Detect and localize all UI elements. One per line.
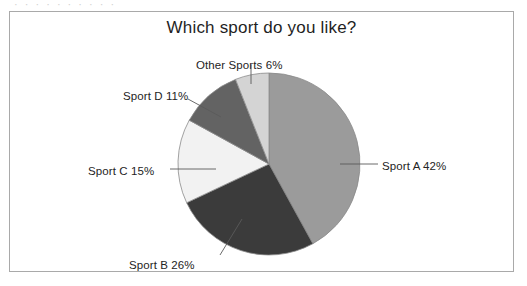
pie-label-other-sports: Other Sports 6% — [196, 59, 283, 71]
pie-label-sport-a: Sport A 42% — [382, 160, 446, 172]
pie-label-sport-b: Sport B 26% — [129, 259, 195, 271]
chart-figure-frame: Which sport do you like? Sport A 42% Spo… — [9, 11, 514, 272]
pie-label-sport-d: Sport D 11% — [123, 90, 188, 102]
pie-chart-plot-area — [10, 12, 515, 273]
scan-edge-artifact: · · · · · · · · · · — [14, 0, 194, 9]
pie-chart-svg — [10, 12, 515, 273]
pie-label-sport-c: Sport C 15% — [88, 165, 154, 177]
